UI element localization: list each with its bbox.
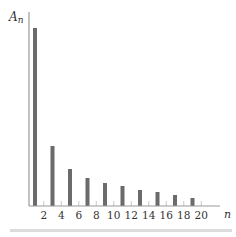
y-axis-label: An [8,10,24,25]
bar-n-13 [138,190,142,206]
tick-label-4: 4 [58,209,65,221]
amplitude-spectrum-chart: An n 2468101214161820 [0,0,236,237]
bar-n-3 [51,146,55,206]
bar-n-7 [86,178,90,206]
tick-label-8: 8 [93,209,100,221]
tick-label-18: 18 [177,209,190,221]
tick-label-16: 16 [160,209,174,221]
bar-n-15 [156,192,160,206]
x-axis-label: n [224,208,231,221]
bar-n-17 [173,195,177,206]
tick-label-2: 2 [40,209,47,221]
bar-n-1 [33,28,37,206]
x-tick-labels: 2468101214161820 [40,209,208,221]
tick-label-10: 10 [107,209,120,221]
tick-label-12: 12 [125,209,138,221]
tick-label-20: 20 [195,209,208,221]
bottom-divider [10,229,232,232]
bar-n-11 [121,186,125,206]
bar-n-5 [68,169,72,206]
tick-label-14: 14 [142,209,156,221]
bar-n-9 [103,183,107,206]
tick-label-6: 6 [75,209,82,221]
bar-n-19 [191,198,195,206]
bars [33,28,195,206]
